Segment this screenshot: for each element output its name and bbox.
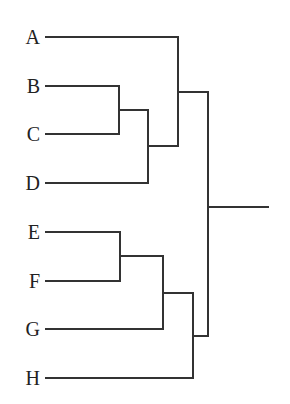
dendrogram-figure: A B C D E F G H — [0, 0, 290, 404]
leaf-label-h: H — [18, 368, 40, 388]
leaf-label-a: A — [18, 27, 40, 47]
dendrogram-lines — [0, 0, 290, 404]
leaf-label-g: G — [18, 319, 40, 339]
leaf-label-e: E — [18, 222, 40, 242]
leaf-label-c: C — [18, 124, 40, 144]
leaf-label-f: F — [18, 271, 40, 291]
leaf-label-b: B — [18, 76, 40, 96]
leaf-label-d: D — [18, 173, 40, 193]
